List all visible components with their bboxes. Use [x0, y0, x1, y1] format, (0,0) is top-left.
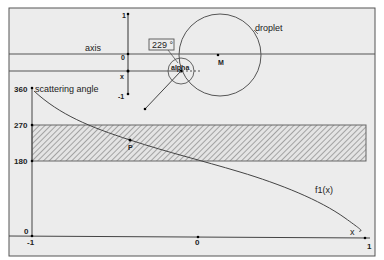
hatched-band: [32, 125, 366, 161]
droplet-label: droplet: [255, 23, 283, 33]
y-tick-0: 0: [24, 227, 29, 236]
center-label: M: [218, 59, 224, 66]
x-tick-1: 1: [367, 242, 372, 251]
y-tick-dot-180: [31, 160, 34, 163]
tick-bottom: -1: [118, 93, 124, 100]
y-tick-180: 180: [14, 157, 28, 166]
center-point: [217, 54, 220, 57]
y-axis-title: scattering angle: [35, 84, 99, 94]
point-p-label: P: [128, 144, 133, 151]
point-top: [127, 13, 130, 16]
tick-top: 1: [122, 12, 126, 19]
y-tick-360: 360: [14, 85, 28, 94]
x-marker-bottom: x: [350, 227, 355, 237]
alpha-label: alpha: [171, 64, 189, 72]
point-bottom: [127, 93, 130, 96]
point-x: [127, 70, 130, 73]
x-marker-top: x: [120, 73, 124, 80]
x-tick-neg1: -1: [27, 238, 35, 247]
tick-zero: 0: [121, 54, 125, 61]
point-p: [129, 139, 132, 142]
function-label: f1(x): [315, 185, 333, 195]
x-tick-0: 0: [195, 238, 200, 247]
ray-end: [144, 108, 147, 111]
y-tick-270: 270: [14, 121, 28, 130]
x-tick-dot-neg1: [31, 235, 34, 238]
axis-label: axis: [85, 43, 102, 53]
diagram-canvas: 1 0 x -1 axis droplet M alpha 229 ° 360 …: [0, 0, 384, 260]
x-tick-dot-1: [364, 237, 367, 240]
y-tick-dot-270: [31, 124, 34, 127]
angle-value: 229 °: [152, 40, 174, 50]
y-tick-dot-360: [31, 87, 34, 90]
point-zero: [127, 53, 130, 56]
